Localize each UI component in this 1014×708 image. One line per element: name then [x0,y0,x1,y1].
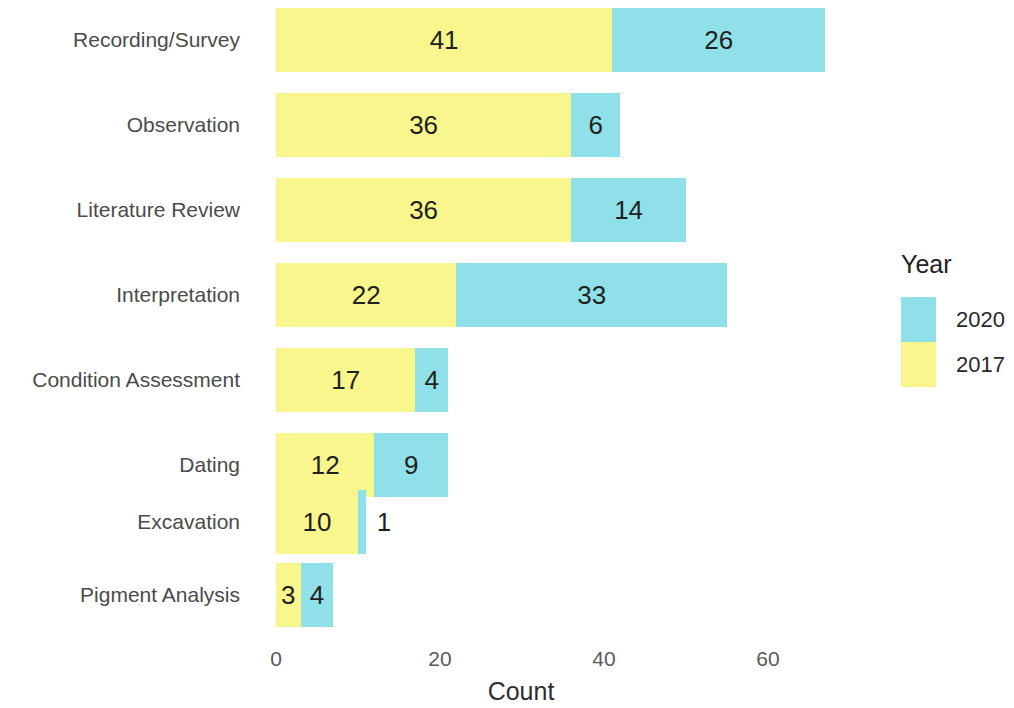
y-axis-label: Dating [0,454,240,475]
bar-value-label: 36 [409,112,438,138]
bar-value-label: 41 [430,27,459,53]
y-axis-label: Observation [0,114,240,135]
x-tick-label: 0 [270,648,282,669]
bar-row: 366 [276,93,620,157]
bar-segment-2017: 36 [276,93,571,157]
bar-segment-2020: 4 [301,563,334,627]
bar-value-label: 26 [704,27,733,53]
bar-value-label: 3 [281,582,295,608]
y-axis-label: Pigment Analysis [0,584,240,605]
bar-segment-2017: 10 [276,490,358,554]
bar-value-label: 36 [409,197,438,223]
y-axis-label: Interpretation [0,284,240,305]
bar-value-label: 10 [303,509,332,535]
legend-item-label: 2020 [956,309,1005,331]
bar-segment-2020: 4 [415,348,448,412]
bar-value-label: 17 [331,367,360,393]
bar-value-label: 4 [425,367,439,393]
bar-segment-2017: 3 [276,563,301,627]
bar-value-label: 12 [311,452,340,478]
y-axis-label: Excavation [0,511,240,532]
bar-segment-2017: 17 [276,348,415,412]
legend-item[interactable]: 2017 [901,342,1014,387]
bar-value-label: 6 [589,112,603,138]
x-axis-title-text: Count [488,679,555,704]
bar-value-label: 1 [377,509,391,535]
bar-value-label: 4 [310,582,324,608]
bar-segment-2020: 1 [358,490,366,554]
plot-area: 41263663614223317412910134 [276,0,836,640]
legend-title: Year [901,252,1014,277]
bar-row: 3614 [276,178,686,242]
legend-color-swatch [901,297,936,342]
bar-value-label: 14 [614,197,643,223]
legend-color-swatch [901,342,936,387]
bar-value-label: 33 [577,282,606,308]
bar-row: 34 [276,563,333,627]
y-axis-label: Recording/Survey [0,29,240,50]
bar-value-label: 9 [404,452,418,478]
bar-segment-2020: 14 [571,178,686,242]
bar-row: 174 [276,348,448,412]
bar-segment-2017: 12 [276,433,374,497]
legend-item-label: 2017 [956,354,1005,376]
bar-value-label: 22 [352,282,381,308]
bar-segment-2020: 6 [571,93,620,157]
y-axis-label: Condition Assessment [0,369,240,390]
bar-segment-2020: 26 [612,8,825,72]
legend-item[interactable]: 2020 [901,297,1014,342]
bar-row: 101 [276,490,366,554]
y-axis-label: Literature Review [0,199,240,220]
bar-row: 2233 [276,263,727,327]
bar-segment-2020: 33 [456,263,727,327]
x-tick-label: 60 [756,648,779,669]
bar-row: 4126 [276,8,825,72]
bar-segment-2017: 36 [276,178,571,242]
legend: Year 20202017 [901,252,1014,387]
bar-segment-2017: 41 [276,8,612,72]
x-tick-label: 20 [428,648,451,669]
bar-row: 129 [276,433,448,497]
x-tick-label: 40 [592,648,615,669]
legend-entries: 20202017 [901,297,1014,387]
x-axis-title: Count [0,679,1014,704]
bar-segment-2020: 9 [374,433,448,497]
stacked-bar-chart: Recording/SurveyObservationLiterature Re… [0,0,1014,708]
bar-segment-2017: 22 [276,263,456,327]
